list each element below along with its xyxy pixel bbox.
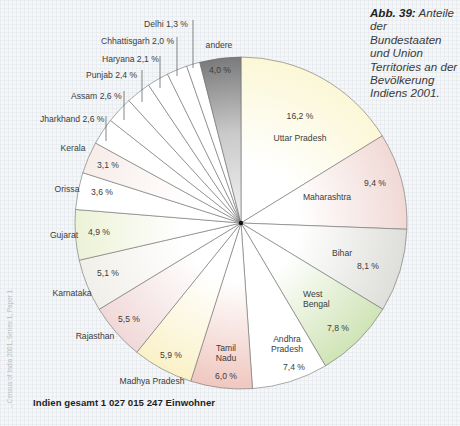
label-jharkhand: Jharkhand 2,6 % (40, 114, 105, 124)
value-karnataka: 5,1 % (97, 268, 119, 278)
value-tamil-nadu: 6,0 % (215, 371, 237, 381)
total-population: Indien gesamt 1 027 015 247 Einwohner (33, 397, 215, 408)
label-andhra-pradesh: AndhraPradesh (271, 334, 303, 354)
label-delhi: Delhi 1,3 % (144, 19, 188, 29)
figure-caption: Abb. 39: Anteile der Bundestaaten und Un… (370, 6, 460, 100)
pie-slices (75, 57, 407, 389)
label-tamil-nadu: TamilNadu (216, 343, 237, 363)
label-madhya-pradesh: Madhya Pradesh (120, 376, 185, 386)
label-chhattisgarh: Chhattisgarh 2,0 % (101, 36, 174, 46)
value-maharashtra: 9,4 % (364, 178, 386, 188)
label-haryana: Haryana 2,1 % (102, 54, 159, 64)
label-gujarat: Gujarat (50, 230, 79, 240)
value-uttar-pradesh: 16,2 % (287, 111, 314, 121)
source-note: ...Census of India 2001, Series 1, Paper… (6, 279, 13, 409)
label-assam: Assam 2,6 % (71, 91, 122, 101)
label-kerala: Kerala (61, 143, 86, 153)
pie-center (239, 221, 243, 225)
value-bihar: 8,1 % (357, 261, 379, 271)
label-bihar: Bihar (332, 248, 352, 258)
value-west-bengal: 7,8 % (327, 323, 349, 333)
label-punjab: Punjab 2,4 % (86, 70, 137, 80)
label-andere: andere (206, 40, 233, 50)
value-rajasthan: 5,5 % (118, 314, 140, 324)
label-karnataka: Karnataka (52, 288, 91, 298)
label-maharashtra: Maharashtra (303, 192, 351, 202)
value-madhya-pradesh: 5,9 % (160, 350, 182, 360)
value-andhra-pradesh: 7,4 % (283, 362, 305, 372)
label-rajasthan: Rajasthan (76, 331, 115, 341)
value-kerala: 3,1 % (97, 160, 119, 170)
figure-caption-text: Anteile der Bundestaaten und Union Terri… (370, 6, 457, 99)
label-uttar-pradesh: Uttar Pradesh (273, 133, 326, 143)
figure-label: Abb. 39: (370, 6, 416, 19)
value-orissa: 3,6 % (91, 187, 113, 197)
label-orissa: Orissa (55, 184, 80, 194)
value-gujarat: 4,9 % (88, 227, 110, 237)
value-andere: 4,0 % (209, 65, 231, 75)
